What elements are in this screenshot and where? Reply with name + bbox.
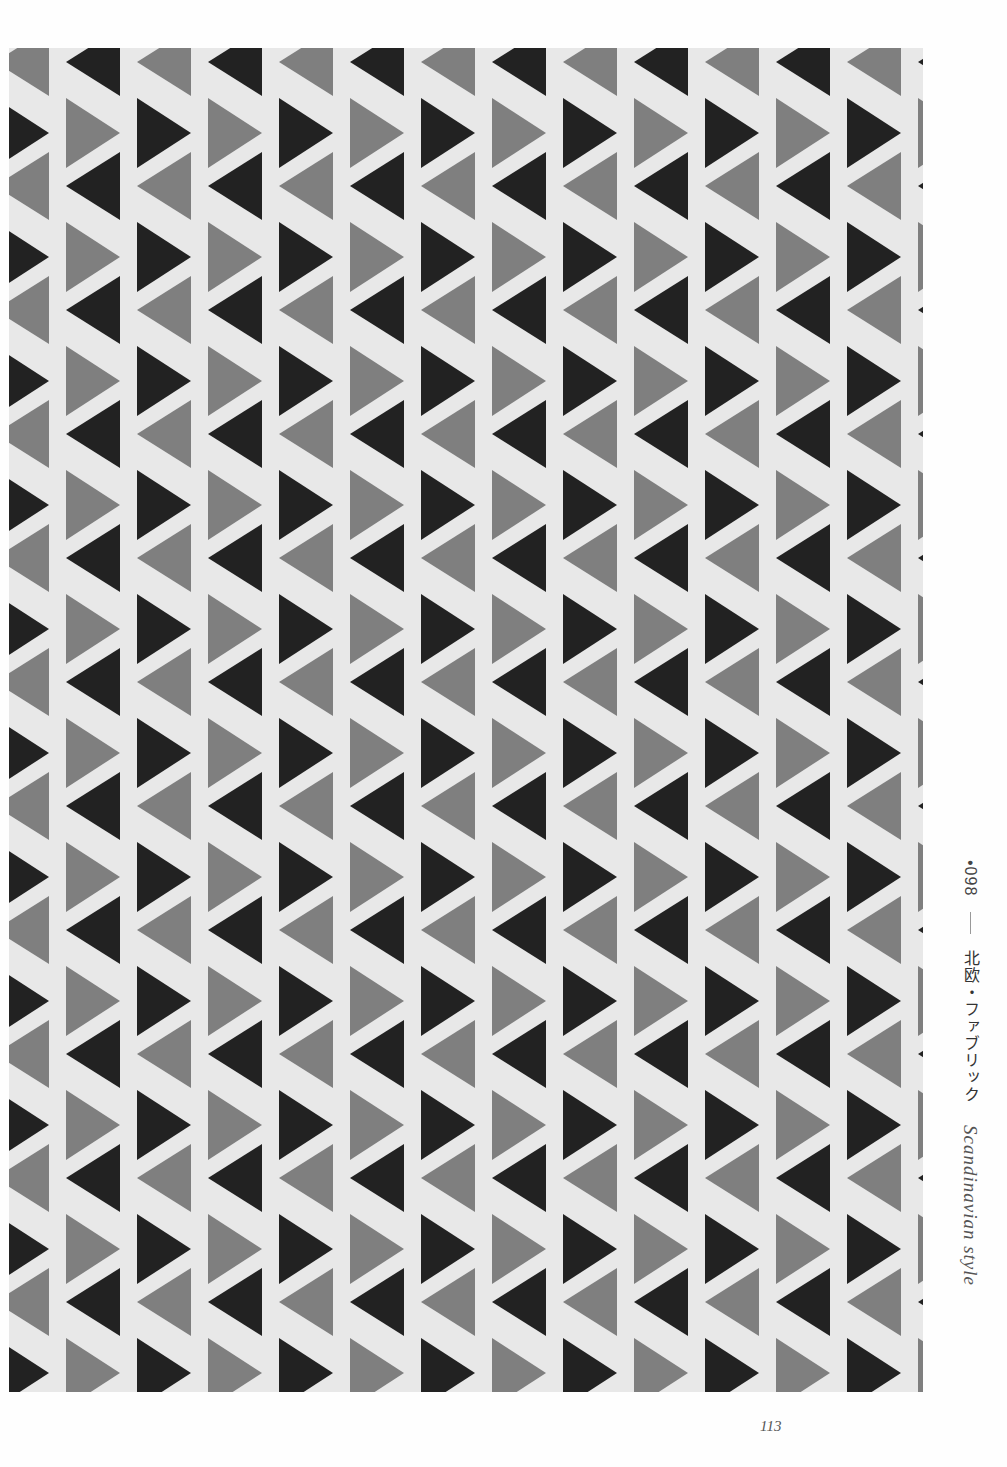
page-number: 113: [760, 1418, 781, 1435]
caption-title-en: Scandinavian style: [960, 1125, 981, 1286]
divider: [970, 912, 971, 934]
caption-title-jp: 北欧・ファブリック: [961, 950, 980, 1103]
pattern-number: •098: [962, 860, 979, 896]
triangle-pattern: [9, 48, 923, 1392]
pattern-caption: •098 北欧・ファブリック Scandinavian style: [958, 860, 982, 1286]
